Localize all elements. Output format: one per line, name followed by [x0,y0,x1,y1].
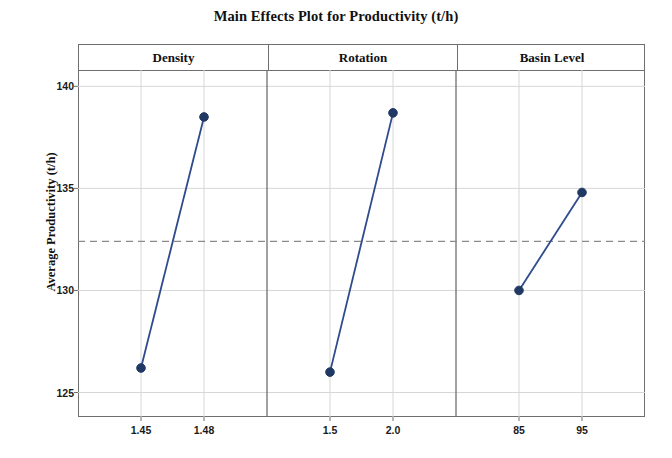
x-axis-tick-labels: 1.451.481.52.08595 [0,424,672,444]
main-effects-chart: Main Effects Plot for Productivity (t/h)… [0,0,672,458]
data-point-density-1.45 [137,364,146,373]
x-tick-85: 85 [513,424,525,436]
data-point-rotation-1.5 [326,368,335,377]
y-axis-tick-labels: 125130135140 [36,0,74,458]
data-point-rotation-2.0 [389,109,398,118]
x-tick-1.5: 1.5 [323,424,338,436]
panel-header-density: Density [79,45,268,70]
panel-header-rotation: Rotation [268,45,457,70]
x-tick-95: 95 [576,424,588,436]
data-point-basin-level-95 [578,188,587,197]
y-tick-135: 135 [40,182,74,194]
panel-header-label: Basin Level [520,50,585,66]
series-line-rotation [330,113,393,372]
y-tick-125: 125 [40,387,74,399]
data-point-basin-level-85 [515,286,524,295]
y-tick-140: 140 [40,80,74,92]
x-tick-1.48: 1.48 [194,424,214,436]
series-line-density [141,117,204,368]
panel-header-basin-level: Basin Level [457,45,646,70]
x-tick-2.0: 2.0 [386,424,401,436]
panel-header-band: DensityRotationBasin Level [79,45,644,71]
x-tick-1.45: 1.45 [131,424,151,436]
data-point-density-1.48 [200,113,209,122]
y-tick-130: 130 [40,284,74,296]
panels-plot-area [78,70,645,417]
chart-title: Main Effects Plot for Productivity (t/h) [0,8,672,25]
panel-header-label: Density [153,50,195,66]
panel-header-label: Rotation [339,50,387,66]
